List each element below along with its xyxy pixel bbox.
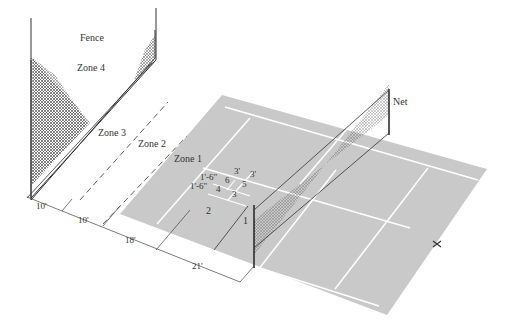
subzone-2: 2 (206, 206, 211, 216)
box-dim-left-b: 1'-6" (190, 182, 207, 191)
dimension-10b: 10' (78, 216, 89, 225)
zone3-label: Zone 3 (98, 128, 126, 138)
subzone-5: 5 (242, 180, 247, 189)
zone2-label: Zone 2 (138, 139, 166, 149)
tennis-court-diagram (0, 0, 508, 333)
subzone-4: 4 (216, 185, 221, 194)
box-dim-top-a: 3' (234, 167, 240, 176)
net-label: Net (393, 97, 407, 107)
dimension-21: 21' (192, 262, 203, 271)
zone1-label: Zone 1 (174, 154, 202, 164)
subzone-3: 3 (232, 190, 237, 199)
subzone-6: 6 (225, 176, 230, 185)
dimension-18: 18' (125, 236, 136, 245)
fence-label: Fence (80, 33, 104, 43)
zone4-label: Zone 4 (77, 63, 105, 73)
box-dim-top-b: 3' (250, 170, 256, 179)
subzone-1: 1 (243, 216, 248, 226)
dimension-10a: 10' (36, 202, 47, 211)
